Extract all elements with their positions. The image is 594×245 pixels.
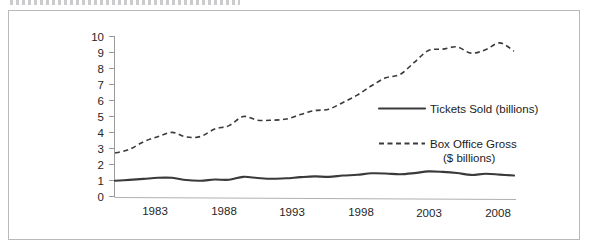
y-tick-label-1: 1	[98, 175, 104, 187]
y-tick-label-6: 6	[98, 95, 104, 107]
series-line-tickets-sold	[115, 171, 514, 180]
x-axis-tick-labels: 1983 1988 1993 1998 2003 2008	[142, 205, 511, 219]
x-tick-label-1998: 1998	[348, 206, 374, 218]
x-tick-label-2008: 2008	[485, 207, 511, 219]
y-axis-ticks	[109, 37, 115, 197]
y-axis-tick-labels: 10 9 8 7 6 5 4 3 2 1 0	[91, 31, 104, 203]
y-tick-label-8: 8	[98, 63, 104, 75]
line-chart: 10 9 8 7 6 5 4 3 2 1 0 1983 1988 1993 19…	[0, 0, 594, 245]
y-tick-label-9: 9	[98, 47, 104, 59]
x-tick-label-2003: 2003	[416, 207, 442, 219]
x-tick-label-1993: 1993	[279, 206, 305, 218]
legend-label-tickets-sold: Tickets Sold (billions)	[430, 103, 538, 115]
y-tick-label-2: 2	[98, 159, 104, 171]
legend-label-box-office-gross: Box Office Gross	[430, 138, 517, 150]
legend-label-box-office-gross-units: ($ billions)	[443, 152, 496, 164]
figure-root: 10 9 8 7 6 5 4 3 2 1 0 1983 1988 1993 19…	[0, 0, 594, 245]
legend: Tickets Sold (billions) Box Office Gross…	[379, 103, 538, 164]
x-axis-line	[115, 198, 517, 200]
x-tick-label-1983: 1983	[142, 205, 168, 217]
series-line-box-office-gross	[115, 43, 514, 153]
y-tick-label-3: 3	[98, 143, 104, 155]
y-tick-label-5: 5	[98, 111, 104, 123]
y-tick-label-4: 4	[98, 127, 105, 139]
y-tick-label-0: 0	[98, 191, 104, 203]
y-tick-label-10: 10	[91, 31, 104, 43]
y-tick-label-7: 7	[98, 79, 104, 91]
x-tick-label-1988: 1988	[211, 205, 237, 217]
